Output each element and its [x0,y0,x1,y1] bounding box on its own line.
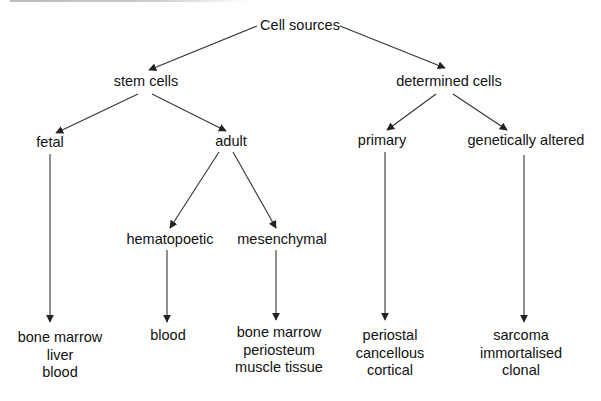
leaf-primary-sources: periostal cancellous cortical [356,327,425,380]
node-stem-cells: stem cells [114,73,178,91]
leaf-line: cortical [356,362,425,380]
leaf-line: liver [18,347,103,365]
leaf-mesenchymal-sources: bone marrow periosteum muscle tissue [235,324,323,377]
leaf-line: clonal [480,362,562,380]
edge-root-stem [149,26,257,70]
node-label: hematopoetic [126,231,213,249]
node-primary: primary [358,132,406,150]
edge-stem-adult [152,94,226,131]
node-label: primary [358,132,406,150]
node-cell-sources: Cell sources [260,17,340,35]
leaf-line: periostal [356,327,425,345]
edge-adult-hemato [170,152,219,228]
node-label: adult [215,133,246,151]
node-fetal: fetal [36,134,63,152]
node-label: fetal [36,134,63,152]
edge-determined-primary [387,94,436,130]
edge-determined-genetic [453,94,507,130]
leaf-line: blood [150,327,185,345]
leaf-line: sarcoma [480,327,562,345]
node-determined-cells: determined cells [396,73,502,91]
leaf-line: immortalised [480,345,562,363]
leaf-line: muscle tissue [235,359,323,377]
leaf-genetically-altered-sources: sarcoma immortalised clonal [480,327,562,380]
node-label: Cell sources [260,17,340,35]
node-label: determined cells [396,73,502,91]
node-label: mesenchymal [237,231,326,249]
leaf-line: bone marrow [235,324,323,342]
node-hematopoetic: hematopoetic [126,231,213,249]
node-label: stem cells [114,73,178,91]
leaf-hematopoetic-sources: blood [150,327,185,345]
leaf-line: blood [18,364,103,382]
leaf-fetal-sources: bone marrow liver blood [18,329,103,382]
leaf-line: bone marrow [18,329,103,347]
node-genetically-altered: genetically altered [468,132,585,150]
edge-adult-mesen [233,152,276,228]
leaf-line: periosteum [235,342,323,360]
node-adult: adult [215,133,246,151]
edge-stem-fetal [56,94,138,133]
leaf-line: cancellous [356,345,425,363]
node-label: genetically altered [468,132,585,150]
node-mesenchymal: mesenchymal [237,231,326,249]
edge-root-determined [340,26,445,68]
